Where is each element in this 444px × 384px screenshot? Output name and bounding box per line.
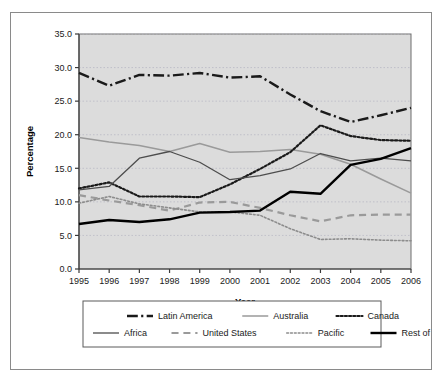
chart-frame: 0.05.010.015.020.025.030.035.01995199619… xyxy=(10,12,432,370)
legend-label: Rest of world xyxy=(402,328,432,338)
x-axis-tick-label: 2004 xyxy=(341,276,361,286)
legend-label: Pacific xyxy=(318,328,345,338)
x-axis-tick-label: 1999 xyxy=(190,276,210,286)
legend-label: United States xyxy=(203,328,258,338)
y-axis-tick-label: 20.0 xyxy=(54,130,72,140)
y-axis-tick-label: 30.0 xyxy=(54,63,72,73)
x-axis-tick-label: 2005 xyxy=(371,276,391,286)
x-axis-tick-label: 2001 xyxy=(250,276,270,286)
x-axis-tick-label: 1996 xyxy=(99,276,119,286)
legend-label: Australia xyxy=(273,311,308,321)
x-axis-tick-label: 2006 xyxy=(401,276,421,286)
x-axis-tick-label: 1998 xyxy=(160,276,180,286)
x-axis-tick-label: 2002 xyxy=(280,276,300,286)
legend-label: Latin America xyxy=(158,311,213,321)
y-axis-tick-label: 10.0 xyxy=(54,197,72,207)
y-axis-title: Percentage xyxy=(24,126,35,177)
legend-label: Africa xyxy=(124,328,147,338)
x-axis-tick-label: 1995 xyxy=(69,276,89,286)
legend-label: Canada xyxy=(368,311,400,321)
legend-box xyxy=(83,301,381,347)
y-axis-tick-label: 5.0 xyxy=(59,231,72,241)
x-axis-tick-label: 1997 xyxy=(129,276,149,286)
y-axis-tick-label: 25.0 xyxy=(54,96,72,106)
y-axis-tick-label: 15.0 xyxy=(54,164,72,174)
x-axis-tick-label: 2003 xyxy=(310,276,330,286)
y-axis-tick-label: 0.0 xyxy=(59,264,72,274)
x-axis-tick-label: 2000 xyxy=(220,276,240,286)
y-axis-tick-label: 35.0 xyxy=(54,29,72,39)
line-chart: 0.05.010.015.020.025.030.035.01995199619… xyxy=(11,13,431,369)
